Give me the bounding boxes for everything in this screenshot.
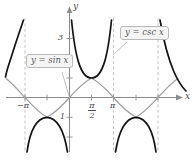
sine-callout: y = sin x xyxy=(26,54,73,68)
x-axis-arrow xyxy=(176,95,183,101)
csc-branch-left-partial xyxy=(6,20,24,77)
x-axis-label: x xyxy=(185,91,190,101)
half-pi-numerator: π xyxy=(86,102,98,110)
y-axis-arrow xyxy=(67,7,73,14)
trig-graph-figure xyxy=(0,0,196,160)
sine-callout-leader xyxy=(62,72,69,96)
y-tick-label-three: 3 xyxy=(58,33,63,42)
y-tick-label-minus-one: 1 xyxy=(60,112,65,121)
y-axis-label: y xyxy=(73,1,78,11)
x-tick-label-half-pi: π 2 xyxy=(86,102,98,119)
x-tick-label-minus-pi: −π xyxy=(17,101,29,110)
csc-branch-neg-pi-to-zero xyxy=(27,117,68,152)
cosecant-callout: y = csc x xyxy=(120,26,169,40)
cosecant-callout-leader xyxy=(113,42,127,55)
csc-branch-zero-to-pi xyxy=(72,20,112,78)
csc-branch-pi-to-two-pi xyxy=(116,117,157,152)
half-pi-denominator: 2 xyxy=(86,112,98,120)
x-tick-label-pi: π xyxy=(110,101,115,110)
